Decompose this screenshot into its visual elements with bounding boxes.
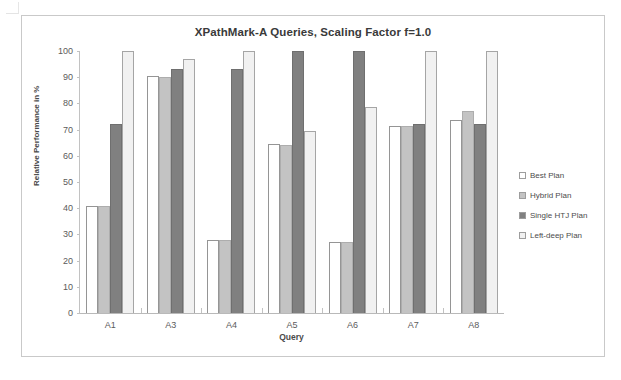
y-axis-title: Relative Performance in % bbox=[32, 86, 41, 186]
bar bbox=[122, 51, 134, 313]
bar bbox=[401, 126, 413, 313]
bar bbox=[486, 51, 498, 313]
y-axis-tick-mark bbox=[77, 313, 80, 314]
bar-group: A4 bbox=[201, 51, 262, 313]
bar bbox=[86, 206, 98, 313]
chart-frame: XPathMark-A Queries, Scaling Factor f=1.… bbox=[21, 15, 605, 357]
bar bbox=[413, 124, 425, 313]
x-axis-tick-label: A5 bbox=[287, 320, 298, 330]
x-axis-title: Query bbox=[79, 332, 504, 342]
bar bbox=[243, 51, 255, 313]
legend-item: Hybrid Plan bbox=[519, 191, 601, 200]
bar bbox=[462, 111, 474, 313]
legend-item: Best Plan bbox=[519, 171, 601, 180]
legend-swatch bbox=[519, 172, 526, 179]
bar bbox=[159, 77, 171, 313]
x-axis-tick-label: A1 bbox=[105, 320, 116, 330]
bar bbox=[341, 242, 353, 313]
bar bbox=[280, 145, 292, 313]
bar bbox=[110, 124, 122, 313]
legend-label: Left-deep Plan bbox=[530, 231, 582, 240]
bar bbox=[425, 51, 437, 313]
x-axis-tick-label: A6 bbox=[347, 320, 358, 330]
legend-label: Single HTJ Plan bbox=[530, 211, 587, 220]
chart-legend: Best PlanHybrid PlanSingle HTJ PlanLeft-… bbox=[519, 171, 601, 240]
legend-item: Left-deep Plan bbox=[519, 231, 601, 240]
x-axis-tick-label: A3 bbox=[165, 320, 176, 330]
bar bbox=[450, 120, 462, 313]
legend-label: Best Plan bbox=[530, 171, 564, 180]
legend-label: Hybrid Plan bbox=[530, 191, 571, 200]
bar bbox=[207, 240, 219, 313]
bar bbox=[171, 69, 183, 313]
bar bbox=[353, 51, 365, 313]
bar bbox=[304, 131, 316, 313]
bar-group: A8 bbox=[443, 51, 504, 313]
legend-swatch bbox=[519, 232, 526, 239]
plot-area: 0102030405060708090100 A1A3A4A5A6A7A8 bbox=[79, 51, 504, 314]
chart-title: XPathMark-A Queries, Scaling Factor f=1.… bbox=[22, 26, 604, 38]
bar-group: A3 bbox=[141, 51, 202, 313]
bar bbox=[389, 126, 401, 313]
legend-swatch bbox=[519, 192, 526, 199]
x-axis-tick-label: A8 bbox=[468, 320, 479, 330]
bar bbox=[365, 107, 377, 313]
x-axis-tick-label: A4 bbox=[226, 320, 237, 330]
bar bbox=[98, 206, 110, 313]
bar bbox=[474, 124, 486, 313]
bar-group: A7 bbox=[383, 51, 444, 313]
bar bbox=[329, 242, 341, 313]
legend-item: Single HTJ Plan bbox=[519, 211, 601, 220]
scan-artifact bbox=[6, 2, 19, 14]
bar bbox=[219, 240, 231, 313]
bar bbox=[231, 69, 243, 313]
bar-group: A1 bbox=[80, 51, 141, 313]
bar-group: A5 bbox=[262, 51, 323, 313]
bar bbox=[268, 144, 280, 313]
bar-groups: A1A3A4A5A6A7A8 bbox=[80, 51, 504, 313]
x-axis-tick-label: A7 bbox=[408, 320, 419, 330]
bar bbox=[292, 51, 304, 313]
bar bbox=[183, 59, 195, 313]
bar bbox=[147, 76, 159, 313]
legend-swatch bbox=[519, 212, 526, 219]
bar-group: A6 bbox=[322, 51, 383, 313]
